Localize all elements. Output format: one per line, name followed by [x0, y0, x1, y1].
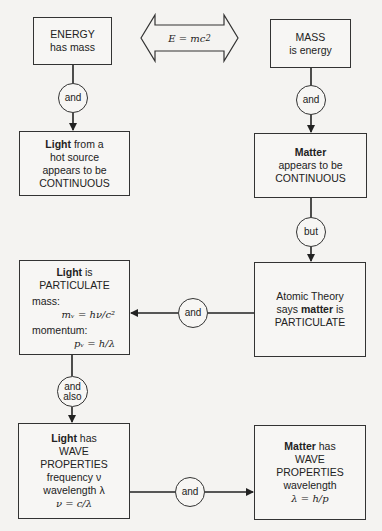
connector-label: and	[303, 95, 320, 105]
node-light-particulate: Light is PARTICULATE mass: mᵥ = hν/c² mo…	[19, 260, 130, 355]
node-text: is energy	[289, 44, 332, 57]
node-text: says matter is	[276, 303, 343, 316]
node-text: mass:	[20, 295, 60, 308]
momentum-equation: pᵥ = h/λ	[74, 337, 129, 350]
mass-equation: mᵥ = hν/c²	[62, 308, 129, 321]
node-text: Matter has	[284, 440, 335, 453]
node-text: hot source	[50, 151, 99, 164]
node-text: PARTICULATE	[39, 279, 110, 292]
connector-and-also: and also	[57, 376, 88, 407]
connector-label: also	[63, 392, 81, 402]
node-bold: Matter	[295, 146, 327, 158]
node-text: frequency ν	[47, 471, 101, 484]
node-text: Light has	[51, 432, 97, 445]
connector-and: and	[296, 85, 326, 115]
node-text: PROPERTIES	[276, 466, 344, 479]
connector-label: and	[64, 382, 81, 392]
node-text: Light is	[56, 266, 92, 279]
node-energy: ENERGY has mass	[33, 17, 112, 65]
node-text: WAVE	[59, 445, 89, 458]
node-text: says	[276, 303, 301, 315]
node-text: ENERGY	[50, 28, 94, 41]
connector-and: and	[58, 83, 88, 113]
node-text: PROPERTIES	[40, 458, 108, 471]
node-bold: Matter	[284, 440, 316, 452]
node-text: Atomic Theory	[276, 290, 344, 303]
node-matter-continuous: Matter appears to be CONTINUOUS	[254, 133, 367, 198]
connector-but: but	[296, 217, 326, 247]
node-text: from a	[71, 138, 104, 150]
node-bold: Light	[45, 138, 71, 150]
node-text: appears to be	[278, 159, 342, 172]
node-bold: matter	[301, 303, 333, 315]
node-mass: MASS is energy	[270, 19, 351, 68]
node-text: appears to be	[42, 164, 106, 177]
node-text: is	[333, 303, 344, 315]
node-light-wave: Light has WAVE PROPERTIES frequency ν wa…	[18, 423, 130, 519]
wave-equation: ν = c/λ	[56, 497, 92, 510]
node-text: has	[316, 440, 336, 452]
node-text: has	[77, 432, 97, 444]
node-text: is	[82, 266, 93, 278]
connector-label: and	[182, 487, 199, 497]
node-text: Light from a	[45, 138, 103, 151]
node-text: momentum:	[20, 324, 87, 337]
node-text: CONTINUOUS	[39, 177, 110, 190]
node-atomic-theory: Atomic Theory says matter is PARTICULATE	[254, 262, 366, 357]
node-text: CONTINUOUS	[275, 172, 346, 185]
de-broglie-equation: λ = h/p	[291, 492, 328, 505]
node-matter-wave: Matter has WAVE PROPERTIES wavelength λ …	[254, 425, 366, 520]
node-bold: Light	[51, 432, 77, 444]
connector-label: and	[65, 93, 82, 103]
connector-label: but	[304, 227, 318, 237]
node-text: wavelength	[283, 479, 336, 492]
equation-label: E = mc2	[141, 14, 238, 62]
connector-label: and	[185, 308, 202, 318]
node-text: MASS	[296, 31, 326, 44]
node-text: PARTICULATE	[275, 316, 346, 329]
node-text: Matter	[295, 146, 327, 159]
node-light-continuous: Light from a hot source appears to be CO…	[19, 131, 130, 196]
equation-exponent: 2	[205, 33, 210, 43]
connector-and: and	[175, 477, 205, 507]
equation-text: E = mc	[168, 33, 205, 44]
node-text: has mass	[50, 41, 95, 54]
node-text: wavelength λ	[43, 484, 104, 497]
node-text: WAVE	[295, 453, 325, 466]
node-bold: Light	[56, 266, 82, 278]
connector-and: and	[178, 298, 208, 328]
